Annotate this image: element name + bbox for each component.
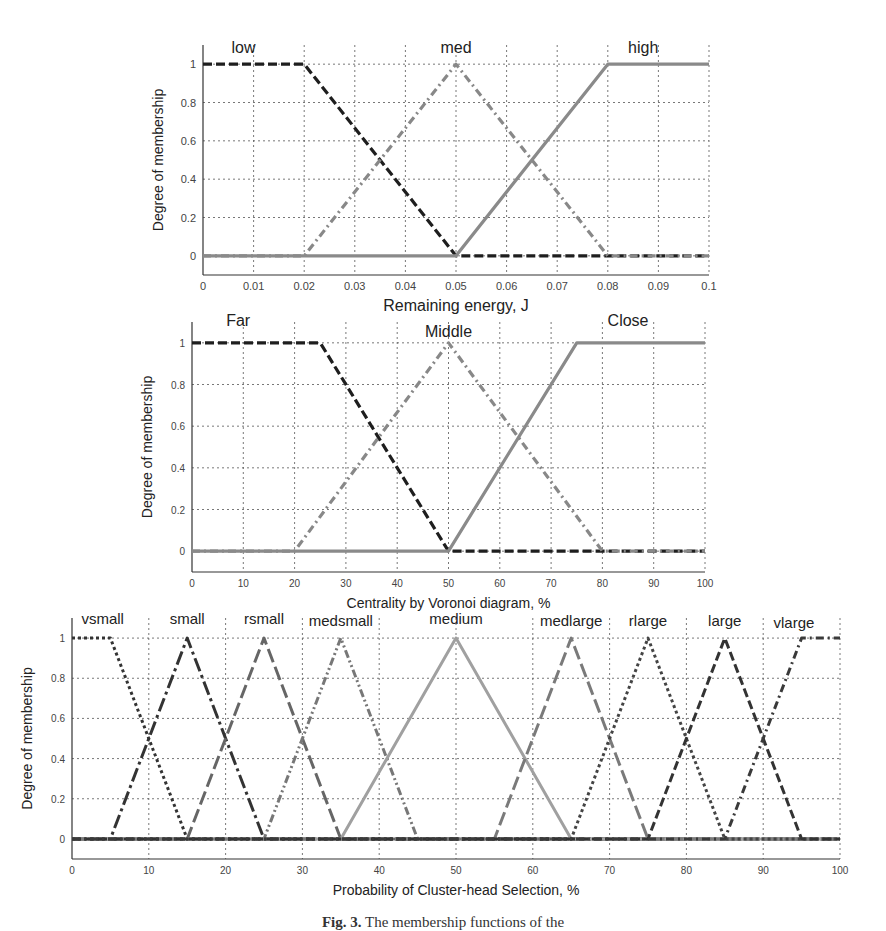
y-axis-title: Degree of membership	[19, 667, 35, 810]
y-tick-label: 0.6	[171, 421, 185, 432]
y-tick-label: 0.2	[181, 212, 196, 224]
x-tick-label: 40	[374, 865, 386, 876]
series-label-low: low	[231, 39, 255, 56]
series-label-medlarge: medlarge	[540, 612, 603, 629]
series-label-medium: medium	[429, 610, 482, 627]
y-tick-label: 0.2	[51, 794, 65, 805]
y-axis-title: Degree of membership	[150, 89, 166, 232]
x-axis-title: Probability of Cluster-head Selection, %	[333, 882, 580, 898]
x-tick-label: 30	[340, 578, 352, 589]
x-tick-label: 0.07	[546, 280, 567, 292]
chart-remaining-energy: 00.010.020.030.040.050.060.070.080.090.1…	[150, 39, 717, 314]
chart-centrality-voronoi: 010203040506070809010000.20.40.60.81Cent…	[139, 312, 714, 611]
series-label-vlarge: vlarge	[773, 614, 814, 631]
grid-lines	[72, 618, 840, 859]
y-axis-title: Degree of membership	[139, 376, 155, 519]
series-label-rlarge: rlarge	[629, 612, 667, 629]
x-tick-label: 0.06	[496, 280, 517, 292]
x-tick-label: 0.03	[344, 280, 365, 292]
x-tick-label: 50	[450, 865, 462, 876]
x-tick-label: 70	[604, 865, 616, 876]
figure-caption: Fig. 3. The membership functions of the	[0, 914, 886, 931]
x-tick-label: 0.08	[597, 280, 618, 292]
x-tick-label: 0.01	[243, 280, 264, 292]
series-label-rsmall: rsmall	[244, 610, 284, 627]
y-tick-label: 0.4	[51, 754, 65, 765]
y-tick-label: 0	[190, 250, 196, 262]
x-tick-label: 20	[220, 865, 232, 876]
x-tick-label: 100	[697, 578, 714, 589]
x-tick-label: 0.1	[701, 280, 716, 292]
series-label-far: Far	[226, 312, 251, 329]
x-tick-label: 50	[443, 578, 455, 589]
x-tick-label: 90	[758, 865, 770, 876]
y-tick-label: 1	[190, 58, 196, 70]
y-tick-label: 0	[179, 546, 185, 557]
x-tick-label: 0	[200, 280, 206, 292]
grid-lines	[192, 322, 705, 572]
x-tick-label: 0.05	[445, 280, 466, 292]
series-label-vsmall: vsmall	[81, 610, 124, 627]
series-label-high: high	[628, 39, 658, 56]
y-tick-label: 0.2	[171, 505, 185, 516]
caption-label: Fig. 3.	[322, 914, 362, 930]
y-tick-label: 0.4	[181, 173, 196, 185]
x-tick-label: 0.02	[293, 280, 314, 292]
x-tick-label: 0.09	[648, 280, 669, 292]
series-label-medsmall: medsmall	[309, 612, 373, 629]
x-tick-label: 60	[527, 865, 539, 876]
y-tick-label: 0.8	[181, 97, 196, 109]
x-tick-label: 80	[597, 578, 609, 589]
x-tick-label: 80	[681, 865, 693, 876]
x-tick-label: 10	[238, 578, 250, 589]
x-tick-label: 70	[546, 578, 558, 589]
series-label-middle: Middle	[425, 323, 472, 340]
x-tick-label: 20	[289, 578, 301, 589]
y-tick-label: 0.6	[181, 135, 196, 147]
series-label-large: large	[708, 612, 741, 629]
chart-cluster-head-probability: 010203040506070809010000.20.40.60.81Prob…	[19, 610, 849, 898]
x-tick-label: 90	[648, 578, 660, 589]
x-axis-title: Remaining energy, J	[383, 297, 529, 314]
series-label-med: med	[440, 39, 471, 56]
x-axis-title: Centrality by Voronoi diagram, %	[347, 595, 551, 611]
x-tick-label: 100	[832, 865, 849, 876]
x-tick-label: 0.04	[395, 280, 416, 292]
y-tick-label: 0.8	[51, 673, 65, 684]
y-tick-label: 1	[59, 633, 65, 644]
grid-lines	[203, 45, 709, 275]
y-tick-label: 0	[59, 834, 65, 845]
y-tick-label: 0.6	[51, 713, 65, 724]
x-tick-label: 30	[297, 865, 309, 876]
x-tick-label: 0	[69, 865, 75, 876]
caption-text: The membership functions of the	[365, 914, 564, 930]
series-label-small: small	[170, 610, 205, 627]
x-tick-label: 40	[392, 578, 404, 589]
x-tick-label: 10	[143, 865, 155, 876]
series-label-close: Close	[608, 312, 649, 329]
y-tick-label: 1	[179, 338, 185, 349]
x-tick-label: 60	[494, 578, 506, 589]
x-tick-label: 0	[189, 578, 195, 589]
y-tick-label: 0.8	[171, 380, 185, 391]
y-tick-label: 0.4	[171, 463, 185, 474]
